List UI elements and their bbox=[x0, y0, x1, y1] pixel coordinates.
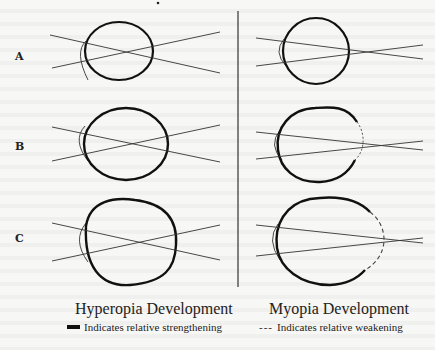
hyperopia-eye-c bbox=[52, 199, 220, 285]
myopia-eye-b bbox=[256, 107, 423, 182]
top-dot bbox=[157, 2, 160, 5]
hyperopia-eye-b bbox=[52, 108, 220, 180]
myopia-caption: Myopia Development bbox=[269, 300, 409, 318]
eye-development-diagram bbox=[0, 0, 435, 350]
weakening-legend-text: Indicates relative weakening bbox=[277, 321, 403, 333]
hyperopia-eye-a bbox=[50, 22, 220, 80]
hyperopia-caption: Hyperopia Development bbox=[75, 300, 233, 318]
row-label-c: C bbox=[15, 232, 24, 245]
strengthening-legend-text: Indicates relative strengthening bbox=[84, 321, 222, 333]
row-label-b: B bbox=[15, 140, 24, 153]
myopia-eye-c bbox=[256, 197, 423, 285]
row-label-a: A bbox=[15, 50, 24, 63]
dashed-line-icon: --- bbox=[259, 321, 273, 333]
strengthening-legend: Indicates relative strengthening bbox=[67, 321, 222, 333]
solid-line-icon bbox=[67, 325, 80, 329]
weakening-legend: --- Indicates relative weakening bbox=[259, 321, 403, 333]
myopia-eye-a bbox=[256, 18, 423, 84]
